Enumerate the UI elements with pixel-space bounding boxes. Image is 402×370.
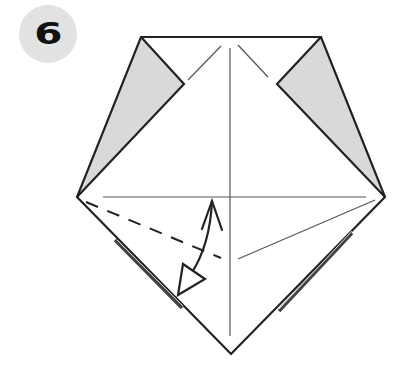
upper-left-crease — [188, 46, 221, 80]
valley-fold-dashed-line — [86, 202, 221, 258]
upper-right-crease — [238, 45, 268, 77]
diagram-canvas: 6 — [0, 0, 402, 370]
right-layer-edge-inner — [279, 231, 352, 309]
right-layer-edge — [279, 233, 352, 311]
fold-unfold-arrow — [178, 201, 222, 295]
origami-diagram — [0, 0, 402, 370]
left-layer-edge — [115, 240, 182, 308]
arrow-hollow-head-icon — [178, 264, 205, 295]
left-layer-edge-inner — [117, 240, 183, 306]
